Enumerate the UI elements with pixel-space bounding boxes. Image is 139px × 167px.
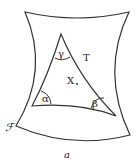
angle-label-gamma: γ: [58, 48, 64, 59]
point-x: [76, 83, 78, 85]
hyperbolic-triangle-diagram: γ T X α β ℱ a: [0, 0, 139, 167]
angle-label-alpha: α: [42, 93, 49, 104]
caption: a: [64, 149, 70, 160]
triangle-label: T: [83, 52, 90, 63]
angle-label-beta: β: [92, 98, 98, 109]
point-label: X: [67, 75, 75, 86]
surface-label: ℱ: [5, 121, 16, 134]
